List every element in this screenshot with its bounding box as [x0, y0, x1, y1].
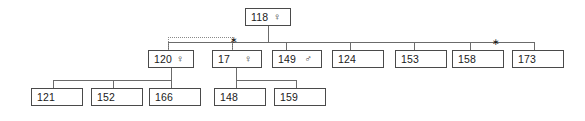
- connector-drop-158: [470, 42, 471, 50]
- node-label-149: 149: [273, 54, 296, 65]
- pedigree-diagram: 118 ♀ ∗ ∗ 120 ♀ 17 ♀ 149 ♂ 124 153 158: [0, 0, 585, 121]
- connector-dotted-link-120-17: [168, 37, 233, 38]
- node-label-148: 148: [215, 92, 238, 103]
- pedigree-node-148[interactable]: 148: [214, 88, 266, 106]
- pedigree-node-166[interactable]: 166: [149, 88, 201, 106]
- pedigree-node-173[interactable]: 173: [512, 50, 564, 68]
- node-label-124: 124: [333, 54, 356, 65]
- connector-drop-173: [534, 42, 535, 50]
- connector-stem-17: [236, 68, 237, 80]
- female-icon: ♀: [274, 12, 291, 22]
- pedigree-node-158[interactable]: 158: [452, 50, 504, 68]
- connector-drop-159: [296, 80, 297, 88]
- female-icon: ♀: [177, 54, 194, 64]
- pedigree-node-152[interactable]: 152: [91, 88, 143, 106]
- pedigree-node-17[interactable]: 17 ♀: [212, 50, 262, 68]
- pedigree-node-118[interactable]: 118 ♀: [245, 8, 291, 26]
- node-label-152: 152: [92, 92, 115, 103]
- connector-drop-121: [53, 80, 54, 88]
- node-label-17: 17: [213, 54, 230, 65]
- pedigree-node-153[interactable]: 153: [395, 50, 447, 68]
- female-icon: ♀: [245, 54, 262, 64]
- node-label-158: 158: [453, 54, 476, 65]
- connector-dotted-drop-120: [168, 37, 169, 50]
- connector-drop-148: [236, 80, 237, 88]
- connector-sibship-bar-17: [236, 80, 296, 81]
- connector-stem-118: [268, 26, 269, 42]
- connector-sibship-bar-120: [53, 80, 171, 81]
- marker-asterisk-158-173: ∗: [492, 38, 500, 47]
- connector-drop-152: [113, 80, 114, 88]
- connector-stem-120: [171, 68, 172, 80]
- marker-asterisk-17: ∗: [230, 36, 238, 45]
- pedigree-node-120[interactable]: 120 ♀: [148, 50, 194, 68]
- connector-drop-153: [414, 42, 415, 50]
- pedigree-node-149[interactable]: 149 ♂: [272, 50, 322, 68]
- connector-sibship-bar-gen2: [168, 42, 534, 43]
- connector-drop-149: [286, 42, 287, 50]
- node-label-120: 120: [149, 54, 172, 65]
- pedigree-node-124[interactable]: 124: [332, 50, 384, 68]
- pedigree-node-159[interactable]: 159: [274, 88, 326, 106]
- node-label-121: 121: [32, 92, 55, 103]
- pedigree-node-121[interactable]: 121: [31, 88, 83, 106]
- male-icon: ♂: [305, 54, 322, 64]
- connector-drop-124: [350, 42, 351, 50]
- node-label-166: 166: [150, 92, 173, 103]
- node-label-159: 159: [275, 92, 298, 103]
- node-label-118: 118: [246, 12, 268, 23]
- node-label-173: 173: [513, 54, 536, 65]
- node-label-153: 153: [396, 54, 419, 65]
- connector-drop-166: [171, 80, 172, 88]
